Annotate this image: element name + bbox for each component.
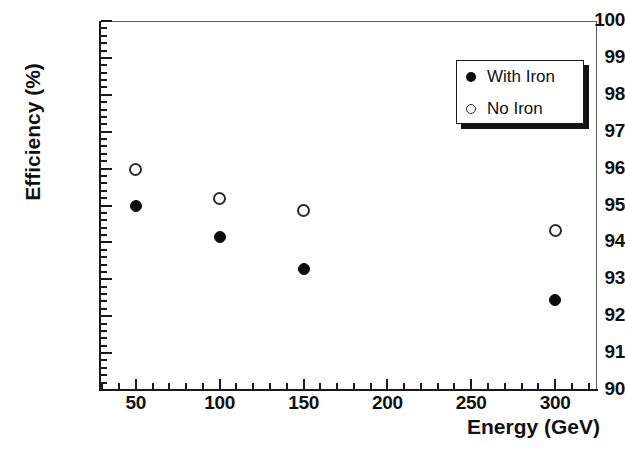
y-tick-minor (101, 190, 107, 192)
legend-label: With Iron (487, 67, 555, 87)
open-circle-icon (457, 93, 487, 125)
y-axis-title: Efficiency (%) (21, 37, 45, 227)
data-point (549, 224, 562, 237)
data-point (130, 200, 142, 212)
y-tick-minor (101, 374, 107, 376)
x-tick-major (219, 379, 221, 390)
y-tick-major (101, 20, 112, 22)
x-tick-minor (370, 383, 372, 390)
y-tick-minor (101, 116, 107, 118)
y-tick-label: 96 (533, 157, 625, 179)
y-tick-major (101, 94, 112, 96)
y-tick-label: 91 (533, 341, 625, 363)
x-tick-minor (286, 383, 288, 390)
filled-circle-icon (457, 61, 487, 93)
x-tick-minor (504, 383, 506, 390)
y-tick-label: 93 (533, 267, 625, 289)
y-tick-minor (101, 286, 107, 288)
y-tick-major (101, 131, 112, 133)
y-tick-minor (101, 219, 107, 221)
x-tick-label: 50 (106, 392, 166, 414)
y-tick-minor (101, 249, 107, 251)
x-tick-minor (235, 383, 237, 390)
y-tick-label: 100 (533, 9, 625, 31)
x-tick-label: 300 (525, 392, 585, 414)
y-tick-minor (101, 308, 107, 310)
x-tick-minor (252, 383, 254, 390)
x-tick-major (135, 379, 137, 390)
x-tick-label: 200 (357, 392, 417, 414)
x-tick-minor (118, 383, 120, 390)
y-tick-minor (101, 359, 107, 361)
y-tick-major (101, 205, 112, 207)
y-tick-minor (101, 271, 107, 273)
chart-canvas: 90919293949596979899100 5010015020025030… (0, 0, 625, 451)
y-tick-minor (101, 293, 107, 295)
x-tick-minor (336, 383, 338, 390)
y-tick-major (101, 315, 112, 317)
y-tick-minor (101, 145, 107, 147)
y-tick-minor (101, 138, 107, 140)
y-tick-minor (101, 256, 107, 258)
y-tick-minor (101, 50, 107, 52)
y-tick-major (101, 168, 112, 170)
x-tick-minor (185, 383, 187, 390)
x-tick-minor (353, 383, 355, 390)
data-point (214, 231, 226, 243)
y-tick-minor (101, 27, 107, 29)
y-tick-minor (101, 234, 107, 236)
x-tick-minor (437, 383, 439, 390)
data-point (549, 294, 561, 306)
y-tick-label: 92 (533, 304, 625, 326)
y-tick-minor (101, 101, 107, 103)
data-point (213, 192, 226, 205)
x-tick-minor (487, 383, 489, 390)
y-tick-minor (101, 300, 107, 302)
data-point (297, 204, 310, 217)
x-tick-major (470, 379, 472, 390)
y-tick-minor (101, 345, 107, 347)
y-tick-major (101, 278, 112, 280)
legend-label: No Iron (487, 99, 543, 119)
y-tick-minor (101, 212, 107, 214)
y-tick-minor (101, 323, 107, 325)
x-tick-label: 100 (190, 392, 250, 414)
x-tick-minor (453, 383, 455, 390)
y-tick-minor (101, 153, 107, 155)
y-tick-minor (101, 42, 107, 44)
y-tick-minor (101, 86, 107, 88)
y-tick-minor (101, 337, 107, 339)
y-tick-minor (101, 175, 107, 177)
y-tick-minor (101, 35, 107, 37)
y-tick-minor (101, 64, 107, 66)
x-tick-minor (420, 383, 422, 390)
x-axis-title: Energy (GeV) (360, 415, 600, 439)
y-tick-minor (101, 264, 107, 266)
y-tick-major (101, 57, 112, 59)
y-tick-major (101, 241, 112, 243)
x-tick-minor (403, 383, 405, 390)
y-tick-major (101, 352, 112, 354)
x-tick-minor (521, 383, 523, 390)
legend-box: With Iron No Iron (456, 60, 584, 124)
x-tick-minor (168, 383, 170, 390)
y-tick-minor (101, 72, 107, 74)
data-point (298, 263, 310, 275)
x-tick-minor (202, 383, 204, 390)
x-axis-line (99, 389, 598, 391)
x-tick-major (303, 379, 305, 390)
y-tick-minor (101, 123, 107, 125)
x-tick-minor (319, 383, 321, 390)
y-tick-minor (101, 227, 107, 229)
y-tick-minor (101, 330, 107, 332)
legend-entry-no-iron: No Iron (457, 93, 585, 125)
y-tick-minor (101, 160, 107, 162)
x-tick-minor (269, 383, 271, 390)
y-tick-label: 95 (533, 194, 625, 216)
x-tick-major (386, 379, 388, 390)
legend-entry-with-iron: With Iron (457, 61, 585, 93)
y-tick-minor (101, 109, 107, 111)
y-tick-label: 94 (533, 230, 625, 252)
x-tick-label: 250 (441, 392, 501, 414)
y-tick-minor (101, 79, 107, 81)
